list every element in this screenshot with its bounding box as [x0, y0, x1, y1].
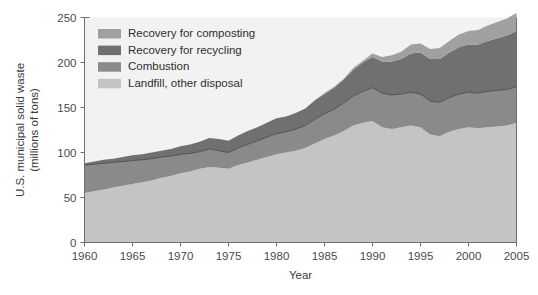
legend-swatch [98, 79, 121, 89]
x-tick-label: 2000 [456, 250, 482, 262]
y-tick-label: 150 [57, 102, 76, 114]
x-tick-label: 1990 [360, 250, 386, 262]
x-tick-label: 1970 [168, 250, 194, 262]
y-axis-title-line: U.S. municipal solid waste [14, 63, 26, 197]
y-tick-label: 200 [57, 57, 76, 69]
y-axis-title-line: (millions of tons) [28, 88, 40, 172]
x-axis-title: Year [289, 269, 312, 281]
stacked-area-chart: 050100150200250 196019651970197519801985… [0, 0, 538, 295]
x-tick-label: 1975 [216, 250, 242, 262]
legend-label: Recovery for composting [128, 27, 255, 39]
x-tick-label: 1960 [72, 250, 98, 262]
legend-label: Combustion [128, 60, 189, 72]
y-tick-label: 250 [57, 12, 76, 24]
chart-container: 050100150200250 196019651970197519801985… [0, 0, 538, 295]
legend-swatch [98, 62, 121, 71]
y-tick-label: 100 [57, 147, 76, 159]
x-tick-label: 1980 [264, 250, 290, 262]
x-tick-label: 1995 [408, 250, 434, 262]
y-tick-label: 0 [70, 237, 76, 249]
legend-swatch [98, 46, 121, 56]
x-tick-label: 2005 [504, 250, 530, 262]
y-tick-label: 50 [64, 192, 77, 204]
x-tick-label: 1985 [312, 250, 338, 262]
x-axis-title-text: Year [289, 269, 312, 281]
legend-label: Recovery for recycling [128, 44, 242, 56]
legend-label: Landfill, other disposal [128, 77, 242, 89]
x-tick-label: 1965 [120, 250, 146, 262]
legend-swatch [98, 29, 121, 39]
